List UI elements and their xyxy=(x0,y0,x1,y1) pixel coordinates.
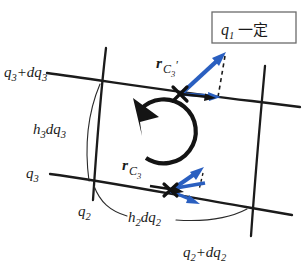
gridline-q2 xyxy=(93,48,106,200)
label-q2-sub: 2 xyxy=(86,211,92,222)
boxed-note-symbol: q xyxy=(221,21,229,39)
label-h3dq3: h3dq3 xyxy=(33,121,66,140)
boxed-note-subscript: 1 xyxy=(229,30,234,41)
label-q2-plus-dq2-suffix: +dq xyxy=(196,244,222,260)
label-vector-r-C3: rC3 xyxy=(122,156,141,181)
label-h3dq3-suffix: dq xyxy=(46,121,62,137)
boxed-note-text: q1一定 xyxy=(221,21,268,41)
label-q2-plus-dq2: q2+dq2 xyxy=(183,244,227,263)
diagram-canvas: q3+dq3 h3dq3 q3 q2 h2dq2 q2+dq2 rC3′ rC3 xyxy=(0,0,303,267)
leader-arcs xyxy=(87,84,247,221)
label-h2dq2-base: h xyxy=(128,209,136,225)
label-q3-sub: 3 xyxy=(33,173,39,184)
circulation-arrow xyxy=(133,98,196,163)
label-vector-upper-prime: ′ xyxy=(175,58,178,72)
label-q2: q2 xyxy=(78,203,92,222)
label-vector-lower-name: r xyxy=(122,156,129,173)
upper-vector-cluster xyxy=(173,52,226,101)
figure-root: q3+dq3 h3dq3 q3 q2 h2dq2 q2+dq2 rC3′ rC3 xyxy=(0,0,303,267)
label-vector-lower-subsub: 3 xyxy=(136,171,141,181)
circulation-arc xyxy=(140,99,196,163)
label-q3-plus-dq3: q3+dq3 xyxy=(4,64,47,83)
label-q2-plus-dq2-suffix-sub: 2 xyxy=(221,252,227,263)
boxed-note: q1一定 xyxy=(212,12,296,43)
label-q3-plus-dq3-suffix-sub: 3 xyxy=(41,72,47,83)
label-q3: q3 xyxy=(26,165,39,184)
boxed-note-cjk: 一定 xyxy=(238,21,268,39)
label-h2dq2-suffix-sub: 2 xyxy=(156,217,162,228)
label-h3dq3-base: h xyxy=(33,121,41,137)
leader-arc-h2dq2-left xyxy=(94,186,127,216)
label-vector-upper-name: r xyxy=(156,54,163,71)
label-h3dq3-suffix-sub: 3 xyxy=(60,129,66,140)
label-vector-r-C3-prime: rC3′ xyxy=(156,54,178,79)
dashed-guide-lower xyxy=(199,173,203,190)
leader-arc-h2dq2-right xyxy=(176,209,247,221)
label-q3-plus-dq3-suffix: +dq xyxy=(17,64,43,80)
label-h2dq2-suffix: dq xyxy=(141,209,157,225)
label-h2dq2: h2dq2 xyxy=(128,209,162,228)
